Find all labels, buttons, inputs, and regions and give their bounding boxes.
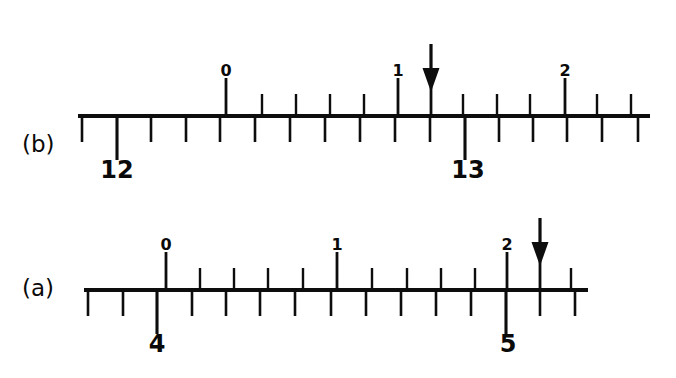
main-scale-label: 13: [451, 156, 484, 184]
vernier-scale-label: 2: [559, 61, 570, 80]
main-scale-label: 4: [149, 330, 166, 358]
vernier-scale-figure: (b)1213012(a)45012: [0, 0, 676, 378]
panel-b: (b)1213012: [22, 44, 650, 184]
arrow-head: [532, 242, 549, 266]
main-scale-label: 5: [500, 330, 517, 358]
vernier-scale-label: 2: [501, 235, 512, 254]
vernier-scale-label: 1: [392, 61, 403, 80]
vernier-scale-label: 0: [160, 235, 171, 254]
coincidence-arrow-icon: [532, 218, 549, 266]
panel-a: (a)45012: [22, 218, 588, 358]
arrow-head: [423, 68, 440, 92]
panel-caption: (a): [22, 275, 54, 301]
main-scale-label: 12: [100, 156, 133, 184]
coincidence-arrow-icon: [423, 44, 440, 92]
vernier-scale-label: 1: [331, 235, 342, 254]
panel-caption: (b): [22, 131, 55, 157]
vernier-scale-label: 0: [220, 61, 231, 80]
figure-canvas: (b)1213012(a)45012: [0, 0, 676, 378]
